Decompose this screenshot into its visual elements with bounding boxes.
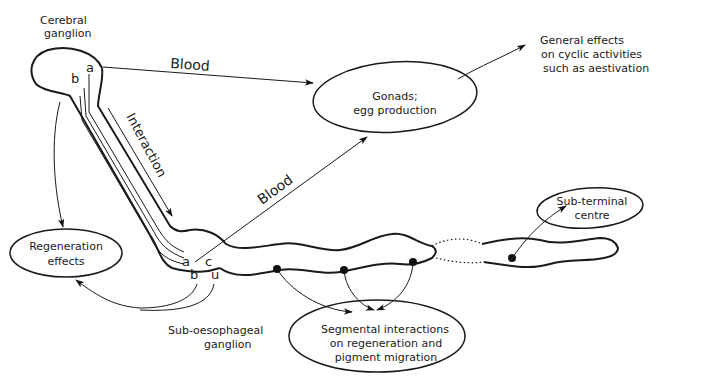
sub-cell-u: u bbox=[211, 267, 219, 282]
regeneration-node bbox=[10, 229, 122, 277]
segmental-label-1: Segmental interactions bbox=[321, 323, 449, 336]
sub-oesophageal-label-1: Sub-oesophageal bbox=[168, 324, 263, 337]
sub-terminal-label-1: Sub-terminal bbox=[557, 195, 628, 208]
edge-seg4-to-sub-terminal bbox=[512, 206, 566, 258]
general-effects-label-1: General effects bbox=[540, 34, 624, 47]
edge-gonads-to-general-effects bbox=[458, 45, 525, 79]
blood-label-top: Blood bbox=[170, 55, 211, 74]
cerebral-cell-b: b bbox=[71, 71, 79, 86]
gonads-label-1: Gonads; bbox=[372, 90, 417, 103]
cerebral-ganglion-label-1: Cerebral bbox=[40, 14, 87, 27]
segmental-label-3: pigment migration bbox=[335, 351, 437, 364]
body-chain bbox=[190, 230, 618, 275]
cerebral-ganglion-label-2: ganglion bbox=[44, 27, 92, 40]
sub-terminal-node bbox=[536, 184, 645, 231]
sub-cell-a: a bbox=[182, 254, 190, 269]
sub-cell-b: b bbox=[190, 267, 198, 282]
regeneration-label-1: Regeneration bbox=[29, 240, 103, 253]
edge-cerebral-to-regeneration bbox=[54, 102, 63, 227]
edge-seg1-to-segmental bbox=[277, 269, 352, 312]
cerebral-cell-a: a bbox=[86, 60, 94, 75]
cerebral-ganglion-shape bbox=[32, 48, 220, 272]
gonads-label-2: egg production bbox=[353, 104, 436, 117]
general-effects-label-3: such as aestivation bbox=[543, 62, 649, 75]
blood-label-diagonal: Blood bbox=[254, 171, 295, 207]
segmental-label-2: on regeneration and bbox=[330, 337, 442, 350]
general-effects-label-2: on cyclic activities bbox=[541, 48, 642, 61]
edge-sub-to-regeneration bbox=[76, 280, 197, 308]
edge-seg2-to-segmental bbox=[344, 270, 374, 310]
sub-oesophageal-label-2: ganglion bbox=[204, 338, 252, 351]
nervous-system-diagram: Cerebral ganglion Gonads; egg production… bbox=[0, 0, 702, 388]
regeneration-label-2: effects bbox=[47, 255, 84, 268]
sub-terminal-label-2: centre bbox=[574, 209, 609, 222]
